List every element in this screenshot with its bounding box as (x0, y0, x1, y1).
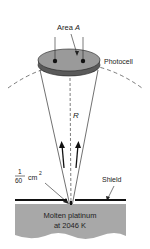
aperture (70, 201, 72, 205)
shield-label: Shield (102, 176, 122, 183)
svg-text:2: 2 (39, 170, 42, 176)
radius-line (70, 78, 71, 206)
aperture-area-label: 1 60 cm 2 (15, 168, 42, 184)
shield-left (15, 199, 67, 201)
svg-text:60: 60 (15, 177, 23, 184)
radius-label: R (73, 111, 79, 120)
cone-left-line (40, 70, 70, 206)
shield-right (75, 199, 126, 201)
svg-text:1: 1 (18, 168, 22, 175)
photocell-radiation-diagram: Area A Photocell R 1 60 cm 2 Shield Molt… (0, 0, 150, 249)
source-label-line2: at 2046 K (54, 221, 86, 230)
radiation-arrow-left (59, 141, 65, 168)
photocell-dot-left (53, 59, 57, 63)
svg-text:cm: cm (28, 174, 38, 181)
photocell (38, 49, 100, 76)
source-label-line1: Molten platinum (44, 211, 97, 220)
area-label: Area A (57, 23, 80, 32)
cone-right-line (72, 70, 98, 206)
photocell-dot-right (81, 59, 85, 63)
shield-pointer (108, 186, 114, 198)
photocell-label: Photocell (104, 58, 133, 65)
